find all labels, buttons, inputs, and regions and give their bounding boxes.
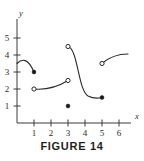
y-tick-label-2: 2 [5,84,10,94]
curve-branch-2 [34,81,68,90]
x-tick-label-4: 4 [83,128,88,138]
figure-caption: FIGURE 14 [0,140,144,152]
y-axis-label: y [18,8,23,18]
endpoint-open-5-3p5 [100,61,104,65]
endpoint-filled-1-3 [32,70,36,74]
x-tick-label-6: 6 [117,128,122,138]
endpoint-open-1-2 [32,87,36,91]
x-axis-label: x [134,111,139,121]
figure-14: 1 2 3 4 5 1 2 3 4 5 6 y x FIGURE 14 [0,0,144,161]
x-tick-label-5: 5 [100,128,105,138]
x-tick-label-1: 1 [32,128,37,138]
endpoint-open-3-4p5 [66,44,70,48]
curve-branch-3 [68,47,102,99]
y-tick-label-1: 1 [5,101,10,111]
y-tick-label-5: 5 [5,33,10,43]
x-tick-label-3: 3 [66,128,71,138]
y-tick-label-4: 4 [5,50,10,60]
curve-branch-4 [102,54,128,64]
endpoint-filled-5-1p5 [100,96,104,100]
curve-branch-1 [17,60,34,72]
graph-plot-area: 1 2 3 4 5 1 2 3 4 5 6 y x [0,0,144,161]
isolated-point-3-1 [66,104,70,108]
y-tick-label-3: 3 [5,67,10,77]
endpoint-open-3-2p5 [66,78,70,82]
x-tick-label-2: 2 [49,128,54,138]
